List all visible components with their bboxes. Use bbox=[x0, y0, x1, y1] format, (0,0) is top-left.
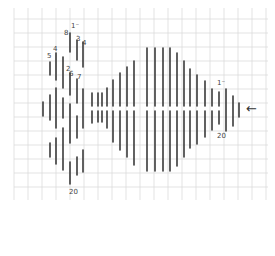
annotation-label-7: 7 bbox=[77, 74, 81, 81]
annotation-label-8: 8 bbox=[64, 30, 68, 37]
left-arrow-icon: ← bbox=[246, 102, 257, 115]
annotation-label-4-top: 4 bbox=[82, 40, 86, 47]
annotation-label-5: 5 bbox=[47, 53, 51, 60]
annotation-label-right-top: 1⁻ bbox=[217, 80, 225, 87]
annotation-label-3: 3 bbox=[76, 36, 80, 43]
graph-paper-diagram bbox=[0, 0, 275, 256]
annotation-label-4-left: 4 bbox=[53, 46, 57, 53]
annotation-label-6: 6 bbox=[69, 71, 73, 78]
annotation-label-right-bottom: 20 bbox=[217, 133, 226, 140]
grid-lines bbox=[14, 8, 268, 200]
annotation-label-top: 1⁻ bbox=[71, 23, 79, 30]
annotation-label-bottom-left: 20 bbox=[69, 189, 78, 196]
